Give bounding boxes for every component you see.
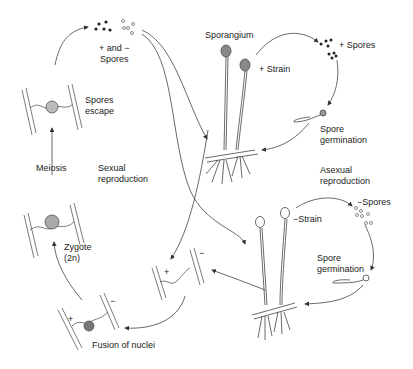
spores-escape-label: Spores escape (85, 95, 114, 116)
minus-spores-icon (355, 207, 373, 225)
plus-minus-spores-icon (94, 20, 134, 35)
arrow-spores-to-germ2 (365, 225, 373, 270)
plus-germinating-spore (294, 110, 326, 122)
arrow-plus-to-conj (171, 130, 208, 259)
asexual-reproduction-label: Asexual reproduction (320, 165, 370, 186)
arrow-conj-to-fusion (125, 296, 185, 328)
conjugation-plus-sign: + (164, 267, 169, 278)
life-cycle-diagram: + and − Spores Spores escape Meiosis Sex… (0, 0, 413, 369)
arrow-minus-to-conj (212, 270, 265, 290)
conjugation-hyphae (152, 248, 204, 300)
sporangium-label: Sporangium (205, 30, 254, 41)
fusion-plus-sign: + (68, 314, 73, 325)
minus-spores-label: −Spores (357, 197, 391, 208)
conjugation-minus-sign: − (199, 248, 204, 259)
minus-strain-label: −Strain (293, 214, 322, 225)
zygote-label: Zygote (2n) (64, 242, 92, 263)
arrow-to-spores (55, 27, 88, 65)
plus-spores-icon (320, 39, 338, 60)
plus-strain-sporangia (205, 45, 258, 184)
arrow-germ2-to-minus (305, 285, 363, 304)
minus-strain-sporangia (252, 208, 297, 341)
arrow-germ-to-plus (262, 123, 309, 150)
plus-spores-label: + Spores (339, 40, 375, 51)
minus-germinating-spore (333, 275, 369, 283)
fusion-of-nuclei-label: Fusion of nuclei (92, 340, 155, 351)
arrow-spores-to-minus (142, 34, 245, 244)
spore-germination-top-label: Spore germination (320, 124, 367, 145)
arrow-spores-to-germ (328, 60, 338, 105)
arrow-plus-to-spores (256, 33, 318, 55)
spores-escape-hyphae (22, 84, 82, 135)
meiosis-label: Meiosis (36, 163, 67, 174)
fusion-minus-sign: − (110, 296, 115, 307)
plus-minus-spores-label: + and − Spores (99, 43, 130, 64)
plus-strain-label: + Strain (259, 64, 290, 75)
arrow-minus-to-spores (296, 198, 352, 208)
sexual-reproduction-label: Sexual reproduction (98, 163, 148, 184)
spore-germination-bottom-label: Spore germination (317, 253, 364, 274)
